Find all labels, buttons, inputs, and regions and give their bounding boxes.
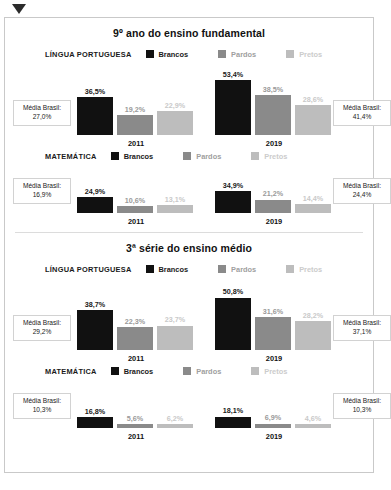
legend-swatch-pardos-icon: [183, 152, 191, 160]
chart-frame: 9º ano do ensino fundamentalLÍNGUA PORTU…: [4, 17, 374, 473]
bar-pretos[interactable]: [157, 205, 193, 213]
bar-pretos[interactable]: [157, 424, 193, 428]
legend-item-pardos[interactable]: Pardos: [218, 265, 256, 274]
bar-pardos[interactable]: [117, 424, 153, 428]
bar-item-pardos[interactable]: 31,6%: [255, 308, 291, 350]
bar-item-brancos[interactable]: 50,8%: [215, 288, 251, 350]
subject-label: MATEMÁTICA: [45, 367, 97, 376]
bar-value-label: 38,5%: [263, 86, 283, 93]
bar-pretos[interactable]: [157, 111, 193, 135]
legend-item-pretos[interactable]: Pretos: [251, 152, 287, 161]
bar-value-label: 16,8%: [85, 408, 105, 415]
bar-pardos[interactable]: [255, 200, 291, 213]
media-brasil-box-right: Média Brasil:10,3%: [333, 393, 391, 419]
bar-pretos[interactable]: [295, 105, 331, 135]
chart-section: 3ª série do ensino médioLÍNGUA PORTUGUES…: [5, 233, 373, 441]
bar-pretos[interactable]: [157, 326, 193, 350]
bar-group-2011: 16,8%5,6%6,2%2011: [71, 390, 195, 441]
bar-brancos[interactable]: [77, 197, 113, 213]
media-brasil-label: Média Brasil:: [338, 319, 386, 328]
bar-brancos[interactable]: [215, 417, 251, 428]
bar-item-pretos[interactable]: 4,6%: [295, 415, 331, 428]
legend-item-brancos[interactable]: Brancos: [111, 367, 154, 376]
legend-item-pretos[interactable]: Pretos: [286, 50, 322, 59]
bar-value-label: 53,4%: [223, 71, 243, 78]
legend-items: BrancosPardosPretos: [111, 152, 359, 161]
bar-brancos[interactable]: [77, 97, 113, 135]
bar-item-brancos[interactable]: 53,4%: [215, 71, 251, 135]
media-brasil-box-left: Média Brasil:27,0%: [13, 100, 71, 126]
media-brasil-label: Média Brasil:: [18, 397, 66, 406]
bar-item-pretos[interactable]: 28,2%: [295, 312, 331, 350]
bar-pretos[interactable]: [295, 424, 331, 428]
bars-container: 36,5%19,2%22,9%: [71, 73, 195, 135]
bar-item-pardos[interactable]: 22,3%: [117, 318, 153, 350]
bar-value-label: 31,6%: [263, 308, 283, 315]
bar-value-label: 18,1%: [223, 407, 243, 414]
legend-item-pretos[interactable]: Pretos: [251, 367, 287, 376]
bar-item-pretos[interactable]: 23,7%: [157, 316, 193, 350]
bar-item-brancos[interactable]: 16,8%: [77, 408, 113, 428]
bar-item-pardos[interactable]: 19,2%: [117, 106, 153, 135]
chart-block: Média Brasil:16,9%24,9%10,6%13,1%201134,…: [5, 164, 373, 226]
bar-item-pretos[interactable]: 22,9%: [157, 102, 193, 135]
sections-container: 9º ano do ensino fundamentalLÍNGUA PORTU…: [5, 18, 373, 441]
bar-item-pardos[interactable]: 10,6%: [117, 197, 153, 213]
year-label: 2019: [209, 139, 333, 148]
bar-pretos[interactable]: [295, 204, 331, 213]
bar-item-pretos[interactable]: 13,1%: [157, 196, 193, 213]
legend-item-pardos[interactable]: Pardos: [183, 152, 221, 161]
legend-label-pardos: Pardos: [196, 152, 221, 161]
legend-item-brancos[interactable]: Brancos: [146, 50, 189, 59]
bar-item-brancos[interactable]: 24,9%: [77, 188, 113, 213]
legend-label-brancos: Brancos: [159, 50, 189, 59]
legend-swatch-pretos-icon: [251, 367, 259, 375]
bar-brancos[interactable]: [77, 417, 113, 428]
bar-value-label: 6,9%: [265, 414, 281, 421]
legend-item-pretos[interactable]: Pretos: [286, 265, 322, 274]
bar-pardos[interactable]: [117, 206, 153, 213]
bar-item-pretos[interactable]: 14,4%: [295, 195, 331, 213]
legend-row: LÍNGUA PORTUGUESABrancosPardosPretos: [5, 46, 373, 62]
legend-row: MATEMÁTICABrancosPardosPretos: [5, 363, 373, 379]
bar-pardos[interactable]: [255, 95, 291, 135]
legend-item-brancos[interactable]: Brancos: [111, 152, 154, 161]
media-brasil-value: 10,3%: [18, 406, 66, 415]
legend-label-pardos: Pardos: [231, 50, 256, 59]
bar-item-brancos[interactable]: 34,9%: [215, 182, 251, 213]
media-brasil-box-left: Média Brasil:29,2%: [13, 315, 71, 341]
media-brasil-value: 41,4%: [338, 113, 386, 122]
bar-pardos[interactable]: [117, 327, 153, 350]
media-brasil-label: Média Brasil:: [18, 182, 66, 191]
bar-pardos[interactable]: [255, 424, 291, 428]
bar-brancos[interactable]: [215, 80, 251, 135]
bar-pardos[interactable]: [117, 115, 153, 135]
bar-item-pardos[interactable]: 38,5%: [255, 86, 291, 135]
bar-item-brancos[interactable]: 36,5%: [77, 88, 113, 135]
bar-item-pardos[interactable]: 6,9%: [255, 414, 291, 428]
legend-swatch-pretos-icon: [286, 50, 294, 58]
bar-brancos[interactable]: [215, 191, 251, 213]
bar-item-brancos[interactable]: 18,1%: [215, 407, 251, 428]
bar-pretos[interactable]: [295, 321, 331, 350]
bar-item-pretos[interactable]: 28,6%: [295, 96, 331, 135]
bars-container: 53,4%38,5%28,6%: [209, 73, 333, 135]
bar-item-pretos[interactable]: 6,2%: [157, 415, 193, 428]
legend-item-brancos[interactable]: Brancos: [146, 265, 189, 274]
bar-value-label: 13,1%: [165, 196, 185, 203]
bar-item-pardos[interactable]: 21,2%: [255, 190, 291, 213]
bar-brancos[interactable]: [215, 298, 251, 350]
legend-item-pardos[interactable]: Pardos: [218, 50, 256, 59]
bar-value-label: 23,7%: [165, 316, 185, 323]
bar-pardos[interactable]: [255, 317, 291, 350]
media-brasil-value: 10,3%: [338, 406, 386, 415]
legend-item-pardos[interactable]: Pardos: [183, 367, 221, 376]
bar-group-2019: 53,4%38,5%28,6%2019: [209, 73, 333, 148]
bar-value-label: 50,8%: [223, 288, 243, 295]
bar-item-brancos[interactable]: 38,7%: [77, 301, 113, 350]
bar-brancos[interactable]: [77, 310, 113, 350]
bars-container: 16,8%5,6%6,2%: [71, 390, 195, 428]
bar-item-pardos[interactable]: 5,6%: [117, 415, 153, 428]
legend-swatch-pretos-icon: [286, 265, 294, 273]
legend-label-pardos: Pardos: [196, 367, 221, 376]
